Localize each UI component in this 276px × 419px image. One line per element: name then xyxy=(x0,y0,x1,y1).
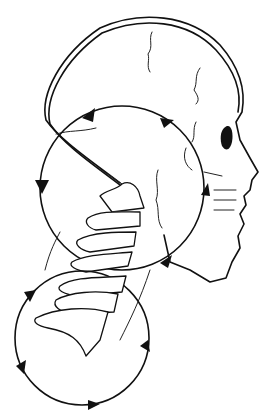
arrow-icon xyxy=(201,183,210,196)
upper-vertebrae xyxy=(71,183,144,272)
arrow-icon xyxy=(35,180,49,194)
anatomy-illustration xyxy=(0,0,276,419)
skull-spine-drawing xyxy=(0,0,276,419)
lower-vertebrae xyxy=(35,276,126,356)
eye-socket-icon xyxy=(221,126,233,150)
arrow-icon xyxy=(88,400,100,410)
